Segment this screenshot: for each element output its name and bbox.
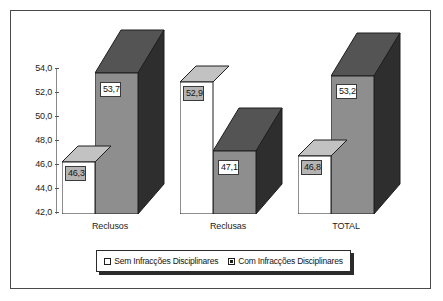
hollow-square-icon — [104, 258, 111, 265]
y-tick-label: 48,0 — [24, 135, 52, 145]
y-tick-label: 50,0 — [24, 111, 52, 121]
bar-total-sem[interactable] — [298, 0, 348, 214]
y-tick-label: 54,0 — [24, 63, 52, 73]
chart-legend: Sem Infracções Disciplinares Com Infracç… — [96, 250, 351, 272]
y-tick-label: 52,0 — [24, 87, 52, 97]
y-tick-mark — [55, 164, 59, 165]
bar-3d-shape — [298, 0, 348, 214]
legend-label: Sem Infracções Disciplinares — [114, 256, 218, 266]
filled-square-icon — [228, 258, 235, 265]
bar-3d-shape — [180, 0, 230, 214]
y-tick-mark — [55, 116, 59, 117]
y-tick-mark — [55, 212, 59, 213]
y-tick-label: 42,0 — [24, 207, 52, 217]
bar-value-label: 46,8 — [301, 160, 322, 175]
y-tick-mark — [55, 68, 59, 69]
category-label-reclusas: Reclusas — [180, 221, 276, 231]
bar-value-label: 46,3 — [65, 166, 86, 181]
category-label-reclusos: Reclusos — [62, 221, 158, 231]
bar-value-label: 52,9 — [183, 86, 204, 101]
legend-item-com-infraccoes[interactable]: Com Infracções Disciplinares — [228, 256, 342, 266]
bar-3d-shape — [62, 0, 112, 214]
y-tick-label: 46,0 — [24, 159, 52, 169]
legend-item-sem-infraccoes[interactable]: Sem Infracções Disciplinares — [104, 256, 218, 266]
bar-reclusas-sem[interactable] — [180, 0, 230, 214]
chart-root: 54,0 52,0 50,0 48,0 46,0 44,0 42,0 53,7 — [0, 0, 443, 301]
plot-area: 54,0 52,0 50,0 48,0 46,0 44,0 42,0 53,7 — [0, 0, 443, 301]
y-tick-mark — [55, 140, 59, 141]
bar-reclusos-sem[interactable] — [62, 0, 112, 214]
y-tick-label: 44,0 — [24, 183, 52, 193]
legend-label: Com Infracções Disciplinares — [238, 256, 342, 266]
y-axis-line — [56, 68, 57, 214]
category-label-total: TOTAL — [298, 221, 394, 231]
y-tick-mark — [55, 92, 59, 93]
y-tick-mark — [55, 188, 59, 189]
